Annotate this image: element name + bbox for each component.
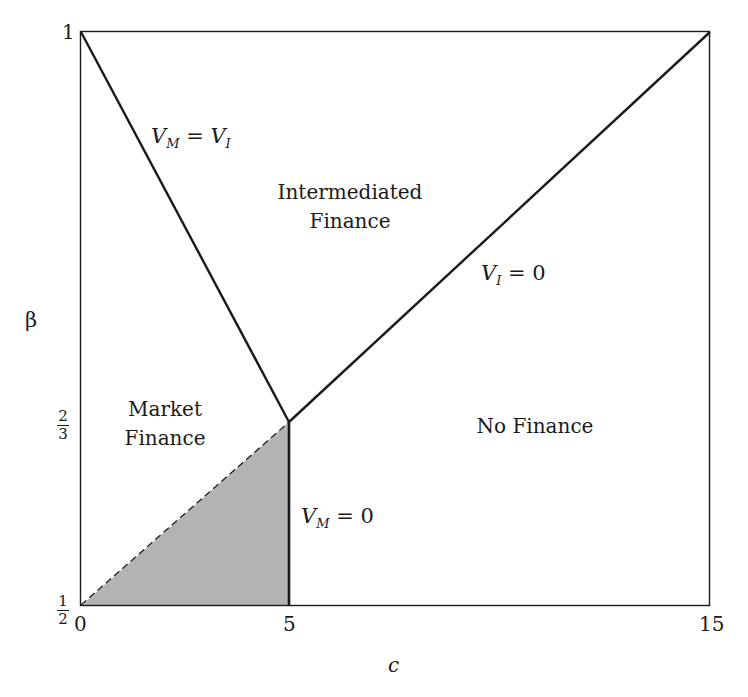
label-vm-zero: VM = 0 xyxy=(301,506,374,530)
label-vi-zero: VI = 0 xyxy=(481,263,546,287)
x-tick-0: 0 xyxy=(74,614,87,634)
line-vm-eq-vi xyxy=(81,32,289,422)
phase-diagram xyxy=(0,0,748,697)
region-line-2: Finance xyxy=(270,207,430,236)
region-line-2: Finance xyxy=(110,424,220,453)
region-no-finance: No Finance xyxy=(470,412,600,441)
frac-num: 1 xyxy=(58,594,68,609)
plot-frame xyxy=(81,32,710,606)
x-tick-15: 15 xyxy=(699,614,724,634)
y-tick-1: 1 xyxy=(62,22,75,42)
region-intermediated-finance: Intermediated Finance xyxy=(270,178,430,236)
label-vm-eq-vi: VM = VI xyxy=(151,126,231,150)
region-line-1: Market xyxy=(110,395,220,424)
x-axis-label: c xyxy=(388,655,399,675)
y-tick-two-thirds: 23 xyxy=(57,405,69,442)
x-tick-5: 5 xyxy=(283,614,296,634)
frac-den: 3 xyxy=(58,427,68,442)
frac-num: 2 xyxy=(58,409,68,424)
y-tick-one-half: 12 xyxy=(57,590,69,627)
y-axis-label: β xyxy=(25,310,37,331)
region-line-1: Intermediated xyxy=(270,178,430,207)
region-market-finance: Market Finance xyxy=(110,395,220,453)
frac-den: 2 xyxy=(58,612,68,627)
